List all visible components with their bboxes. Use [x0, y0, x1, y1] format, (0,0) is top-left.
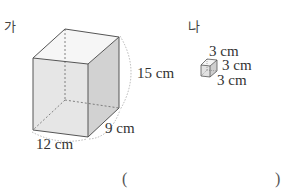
dimension-depth-ga: 9 cm — [105, 121, 135, 136]
answer-blank[interactable] — [132, 170, 272, 188]
answer-close-paren: ) — [275, 170, 280, 188]
dimension-height-ga: 15 cm — [137, 66, 174, 81]
dimension-bottom-na: 3 cm — [217, 73, 247, 88]
prism-ga-drawing — [0, 0, 287, 195]
dimension-width-ga: 12 cm — [36, 137, 73, 152]
answer-open-paren: ( — [122, 170, 127, 188]
cube-na-drawing — [201, 59, 217, 77]
dimension-right-na: 3 cm — [222, 58, 252, 73]
